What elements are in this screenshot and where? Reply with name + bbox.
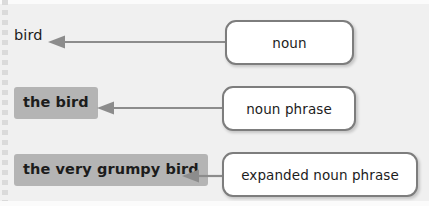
left-arrow-icon <box>48 34 228 50</box>
label-box-noun-phrase[interactable]: noun phrase <box>222 86 356 131</box>
left-arrow-icon <box>97 100 227 116</box>
left-arrow-icon <box>182 168 226 184</box>
phrase-term-the-bird: the bird <box>14 87 98 119</box>
diagram-row-noun-phrase: the bird noun phrase <box>0 78 429 126</box>
phrase-term-the-very-grumpy-bird: the very grumpy bird <box>14 154 208 186</box>
diagram-row-expanded-noun-phrase: the very grumpy bird expanded noun phras… <box>0 144 429 196</box>
phrase-term-bird: bird <box>14 28 43 43</box>
label-box-expanded-noun-phrase[interactable]: expanded noun phrase <box>222 152 418 197</box>
label-box-expanded-noun-phrase-text: expanded noun phrase <box>241 167 399 183</box>
label-box-noun-phrase-text: noun phrase <box>246 101 332 117</box>
page-edge-top <box>0 0 429 4</box>
diagram-row-noun: bird noun <box>0 12 429 60</box>
label-box-noun-text: noun <box>272 35 306 51</box>
noun-phrase-diagram: bird noun the bird noun phrase the very … <box>0 0 429 206</box>
page-edge-bottom <box>0 201 429 206</box>
label-box-noun[interactable]: noun <box>225 20 354 65</box>
